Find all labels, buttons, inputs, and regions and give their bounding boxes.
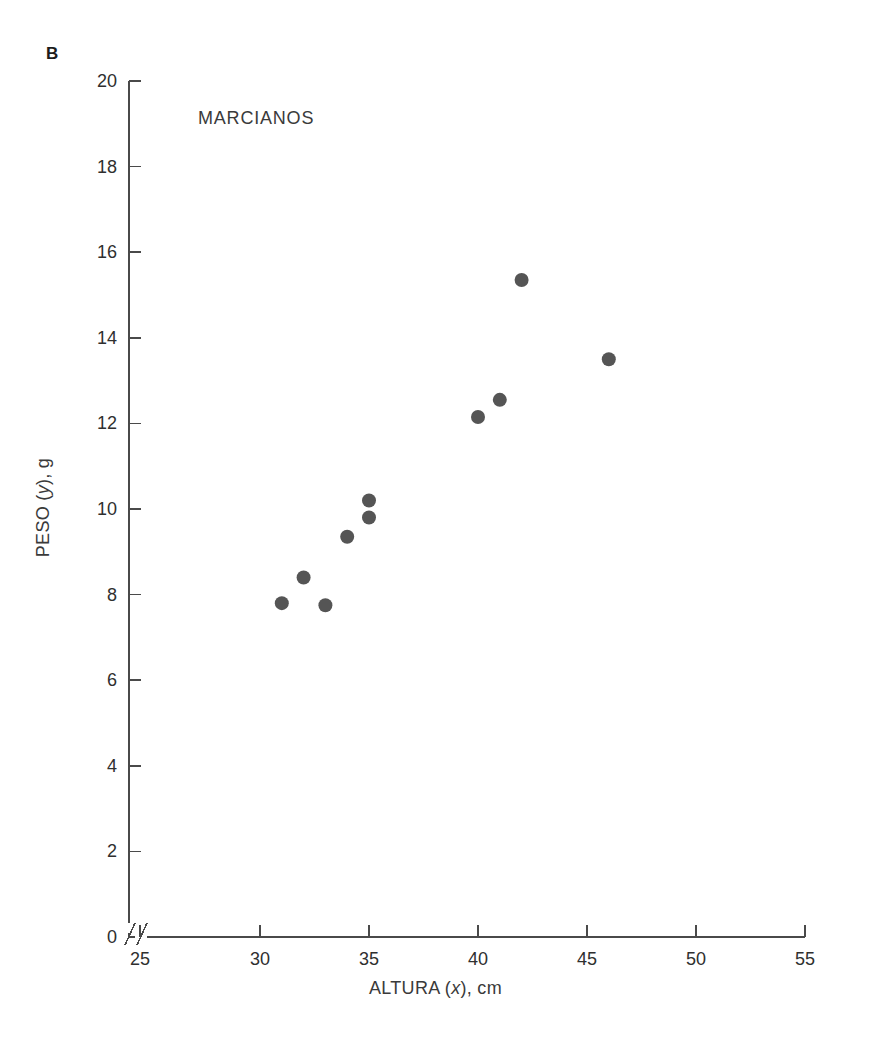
- data-point: [340, 530, 354, 544]
- y-tick-label: 14: [71, 327, 117, 348]
- axes: [129, 81, 805, 937]
- data-point: [275, 596, 289, 610]
- data-point: [471, 410, 485, 424]
- data-point: [318, 598, 332, 612]
- data-point: [602, 352, 616, 366]
- x-tick-label: 40: [448, 949, 508, 970]
- y-tick-label: 4: [71, 755, 117, 776]
- y-tick-label: 16: [71, 242, 117, 263]
- x-tick-label: 35: [339, 949, 399, 970]
- axis-ticks: [129, 167, 696, 937]
- x-tick-label: 25: [110, 949, 170, 970]
- y-tick-label: 8: [71, 584, 117, 605]
- x-tick-label: 45: [557, 949, 617, 970]
- data-point: [362, 493, 376, 507]
- data-point: [362, 511, 376, 525]
- data-points: [275, 273, 616, 612]
- data-point: [515, 273, 529, 287]
- x-tick-label: 55: [775, 949, 835, 970]
- data-point: [297, 570, 311, 584]
- x-tick-label: 50: [666, 949, 726, 970]
- y-tick-label: 2: [71, 841, 117, 862]
- y-tick-label: 20: [71, 71, 117, 92]
- data-point: [493, 393, 507, 407]
- scatter-plot-canvas: [0, 0, 871, 1045]
- y-tick-label: 6: [71, 670, 117, 691]
- y-tick-label: 10: [71, 499, 117, 520]
- x-tick-label: 30: [230, 949, 290, 970]
- y-tick-label: 18: [71, 156, 117, 177]
- y-tick-label: 12: [71, 413, 117, 434]
- figure-panel-b: B MARCIANOS PESO (y), g ALTURA (x), cm 0…: [0, 0, 871, 1045]
- y-tick-label: 0: [71, 927, 117, 948]
